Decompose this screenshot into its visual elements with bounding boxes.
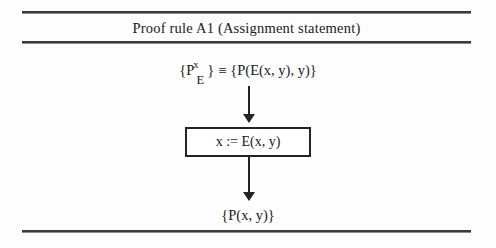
footer-rule [22, 230, 471, 232]
precondition-superscript: x [193, 59, 198, 70]
assignment-statement-text: x := E(x, y) [187, 129, 309, 155]
arrow-head [243, 114, 255, 123]
proof-rule-figure: Proof rule A1 (Assignment statement) {Px… [0, 0, 496, 248]
precondition-formula: {PxE}≡{P(E(x, y), y)} [0, 60, 496, 80]
header-rule-top [22, 11, 471, 13]
arrow-head [243, 192, 255, 201]
precondition-expansion: {P(E(x, y), y)} [230, 62, 316, 78]
arrow-down-to-statement-icon [242, 86, 256, 124]
postcondition-formula: {P(x, y)} [0, 205, 496, 225]
equivalence-symbol: ≡ [214, 62, 230, 78]
arrow-down-to-postcondition-icon [242, 157, 256, 203]
precondition-subscript: E [197, 73, 205, 87]
header-rule-bottom [22, 41, 471, 43]
figure-title: Proof rule A1 (Assignment statement) [22, 17, 471, 39]
arrow-shaft [248, 157, 250, 193]
assignment-statement-box: x := E(x, y) [185, 127, 311, 157]
arrow-shaft [248, 86, 250, 115]
